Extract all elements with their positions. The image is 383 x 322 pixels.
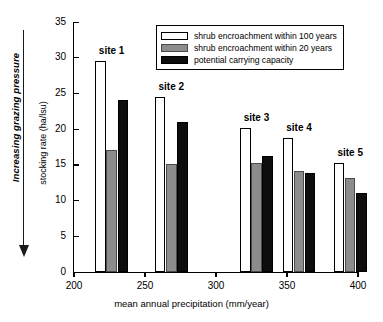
y-tick-label: 15 [55,158,66,169]
grazing-pressure-annotation: Increasing grazing pressure [2,26,28,270]
legend-swatch-gray-icon [161,44,188,52]
legend-label: shrub encroachment within 20 years [194,43,332,53]
y-tick-label: 30 [55,51,66,62]
x-tick-label: 400 [336,280,380,291]
legend-item: shrub encroachment within 20 years [161,42,337,53]
bar [356,193,367,272]
y-tick-label: 20 [55,123,66,134]
bar [240,128,251,272]
bar [305,173,316,272]
y-axis-title: stocking rate (ha/lsu) [38,78,48,208]
site-label: site 1 [81,45,142,56]
x-tick-mark [357,272,358,277]
y-tick-label: 0 [60,266,66,277]
y-tick-mark [74,93,79,94]
legend-label: potential carrying capacity [194,55,293,65]
bar-chart-figure: Increasing grazing pressure stocking rat… [0,0,383,322]
y-tick-mark [74,272,79,273]
y-tick-label: 5 [60,230,66,241]
y-tick-mark [74,129,79,130]
y-tick-label: 10 [55,194,66,205]
bar [155,97,166,272]
bar [251,163,262,272]
bar [177,122,188,272]
y-tick-label: 35 [55,16,66,27]
bar [283,138,294,272]
y-tick-mark [74,22,79,23]
x-tick-label: 350 [265,280,309,291]
bar [95,61,106,272]
y-tick-mark [74,236,79,237]
legend-label: shrub encroachment within 100 years [194,31,337,41]
x-tick-label: 300 [194,280,238,291]
y-tick-mark [74,57,79,58]
legend-swatch-white-icon [161,32,188,40]
site-label: site 4 [269,122,330,133]
x-tick-mark [144,272,145,277]
chart-legend: shrub encroachment within 100 years shru… [156,25,344,70]
bar [166,164,177,272]
y-tick-mark [74,164,79,165]
bar [118,100,129,272]
down-arrow-icon [23,30,24,252]
legend-item: shrub encroachment within 100 years [161,30,337,41]
bar [345,178,356,272]
site-label: site 2 [141,81,202,92]
y-tick-label: 25 [55,87,66,98]
x-tick-mark [73,272,74,277]
y-tick-mark [74,200,79,201]
x-tick-mark [286,272,287,277]
x-tick-label: 200 [52,280,96,291]
bar [106,150,117,272]
bar [334,163,345,272]
legend-swatch-black-icon [161,56,188,64]
x-axis-title: mean annual precipitation (mm/year) [0,298,383,309]
bar [262,156,273,272]
x-tick-label: 250 [123,280,167,291]
grazing-pressure-label: Increasing grazing pressure [10,33,21,203]
site-label: site 5 [320,147,381,158]
bar [294,171,305,272]
x-tick-mark [215,272,216,277]
legend-item: potential carrying capacity [161,54,337,65]
